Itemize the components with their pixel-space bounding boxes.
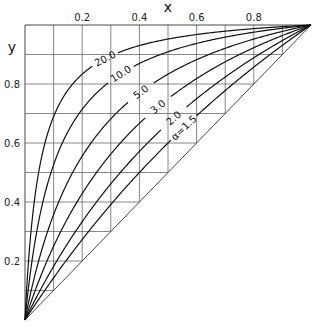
curve-label: 20.0	[93, 49, 118, 69]
y-tick-label: 0.2	[4, 256, 20, 267]
curve-label: 10.0	[108, 63, 133, 84]
curve-label: 5.0	[131, 83, 150, 101]
x-axis-label: x	[164, 0, 172, 15]
curve-alpha-2.0	[25, 130, 161, 320]
axis-ticks: 0.20.40.60.80.20.40.60.8	[4, 12, 262, 267]
y-tick-label: 0.6	[4, 138, 20, 149]
y-tick-label: 0.8	[4, 79, 20, 90]
x-tick-label: 0.6	[189, 12, 205, 23]
x-tick-label: 0.4	[131, 12, 147, 23]
curve-alpha-1.5	[25, 140, 171, 320]
curve-alpha-2.0	[187, 25, 311, 107]
vle-chart: 20.010.05.03.02.0α=1.5 0.20.40.60.80.20.…	[0, 0, 321, 330]
x-tick-label: 0.8	[246, 12, 262, 23]
y-tick-label: 0.4	[4, 197, 20, 208]
x-tick-label: 0.2	[74, 12, 90, 23]
y-axis-label: y	[8, 39, 16, 55]
